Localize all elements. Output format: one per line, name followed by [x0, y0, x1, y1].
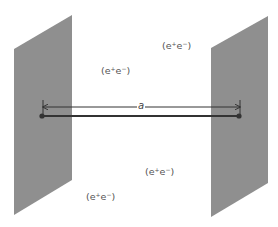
pair-label-lower-left: (e+e−): [86, 192, 115, 202]
pair-text: (e: [145, 166, 155, 177]
pair-text: ): [187, 40, 191, 51]
connector-dot-left: [39, 113, 44, 118]
pair-text: (e: [86, 191, 96, 202]
pair-text: (e: [101, 65, 111, 76]
separation-label: a: [137, 101, 145, 111]
casimir-diagram: [0, 0, 278, 227]
connector-dot-right: [236, 113, 241, 118]
pair-label-upper-left: (e+e−): [101, 66, 130, 76]
pair-text: (e: [162, 40, 172, 51]
pair-label-lower-right: (e+e−): [145, 167, 174, 177]
pair-text: ): [170, 166, 174, 177]
pair-text: ): [126, 65, 130, 76]
pair-label-upper-right: (e+e−): [162, 41, 191, 51]
pair-text: ): [111, 191, 115, 202]
